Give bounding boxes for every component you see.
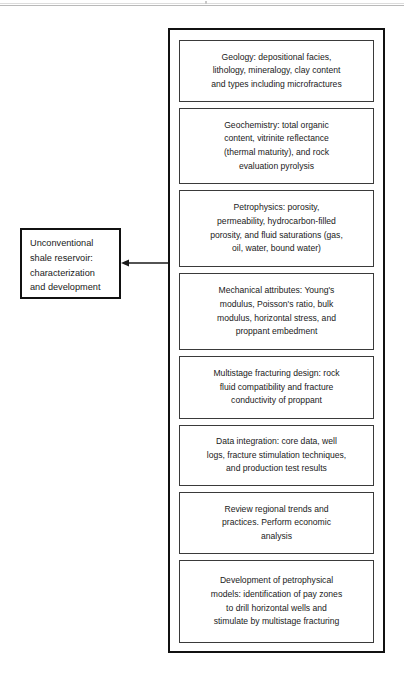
workflow-item-multistage-fracturing-design: Multistage fracturing design: rock fluid… <box>179 356 374 419</box>
page-top-rule <box>0 5 404 6</box>
arrow-head <box>121 259 129 266</box>
workflow-item-label: Review regional trends and practices. Pe… <box>222 503 331 544</box>
summary-node: Unconventional shale reservoir: characte… <box>20 228 121 299</box>
workflow-item-label: Data integration: core data, well logs, … <box>207 435 346 476</box>
workflow-item-mechanical-attributes: Mechanical attributes: Young's modulus, … <box>179 273 374 350</box>
workflow-item-geochemistry: Geochemistry: total organic content, vit… <box>179 108 374 184</box>
page-top-hairline <box>0 3 404 4</box>
scan-artifact <box>205 1 207 4</box>
workflow-item-review-regional-trends: Review regional trends and practices. Pe… <box>179 492 374 554</box>
summary-node-label: Unconventional shale reservoir: characte… <box>30 236 111 295</box>
workflow-item-list: Geology: depositional facies, lithology,… <box>179 40 374 643</box>
workflow-item-geology: Geology: depositional facies, lithology,… <box>179 40 374 102</box>
workflow-item-label: Multistage fracturing design: rock fluid… <box>213 367 339 408</box>
workflow-item-data-integration: Data integration: core data, well logs, … <box>179 425 374 486</box>
left-arrow-icon <box>118 254 172 272</box>
workflow-group-box: Geology: depositional facies, lithology,… <box>168 28 385 653</box>
left-arrow-svg <box>118 254 172 272</box>
workflow-item-label: Mechanical attributes: Young's modulus, … <box>217 284 336 338</box>
workflow-item-label: Geology: depositional facies, lithology,… <box>211 51 341 92</box>
workflow-item-label: Geochemistry: total organic content, vit… <box>224 119 329 173</box>
workflow-item-label: Petrophysics: porosity, permeability, hy… <box>210 201 343 255</box>
workflow-item-petrophysics: Petrophysics: porosity, permeability, hy… <box>179 190 374 267</box>
workflow-item-label: Development of petrophysical models: ide… <box>211 574 342 628</box>
workflow-item-development-petrophysical-models: Development of petrophysical models: ide… <box>179 560 374 643</box>
